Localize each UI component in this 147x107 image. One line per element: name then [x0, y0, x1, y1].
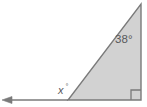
right-triangle-shape [68, 4, 141, 100]
geometry-canvas: 38° x ° [0, 0, 147, 107]
left-arrowhead-icon [2, 97, 12, 104]
exterior-angle-variable-label: x [57, 84, 64, 96]
apex-angle-label: 38° [115, 33, 133, 45]
exterior-angle-degree-icon: ° [66, 82, 69, 91]
geometry-figure: 38° x ° [0, 0, 147, 107]
